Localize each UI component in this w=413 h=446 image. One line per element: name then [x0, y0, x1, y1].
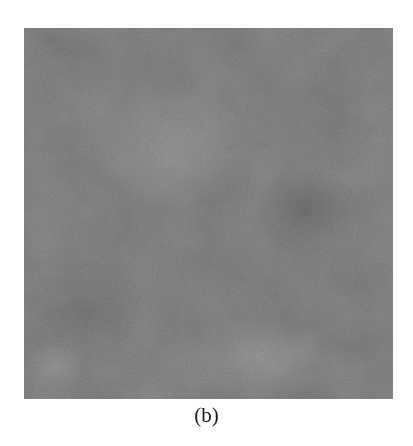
- figure-caption: (b): [0, 402, 413, 428]
- figure: (b): [0, 0, 413, 446]
- texture-image: [24, 28, 393, 399]
